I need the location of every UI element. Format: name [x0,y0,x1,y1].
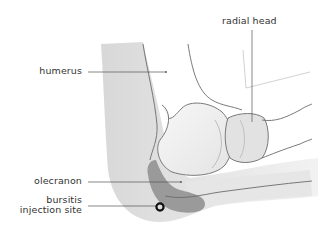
ulna-outline [188,44,242,110]
label-olecranon: olecranon [10,176,82,186]
label-bursitis-line2: injection site [0,205,82,215]
label-radial-head: radial head [222,16,277,26]
label-humerus: humerus [20,66,82,76]
radius-faint-line [243,50,310,88]
forearm-top-contour [262,104,312,121]
radial-head [225,114,268,163]
forearm-mid-contour [262,139,312,158]
humerus-leader-dot [165,71,167,73]
olecranon-leader-dot [180,181,182,183]
